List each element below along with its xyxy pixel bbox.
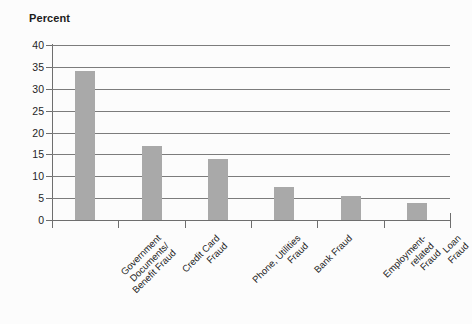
plot-area (52, 45, 450, 220)
bar (208, 159, 228, 220)
y-tick-label: 20 (22, 128, 44, 138)
bar (75, 71, 95, 220)
gridline (52, 67, 450, 68)
gridline (52, 198, 450, 199)
x-tick-mark (450, 221, 451, 228)
category-label: GovernmentDocuments/Benefit Fraud (116, 233, 179, 296)
x-tick-mark (118, 221, 119, 228)
y-tick-label: 30 (22, 84, 44, 94)
gridline (52, 89, 450, 90)
category-label: Bank Fraud (313, 233, 355, 275)
x-tick-mark (251, 221, 252, 228)
gridline (52, 176, 450, 177)
y-tick-label: 15 (22, 149, 44, 159)
x-tick-mark (185, 221, 186, 228)
x-tick-mark (52, 221, 53, 228)
y-axis-title: Percent (29, 12, 70, 24)
x-tick-mark (384, 221, 385, 228)
gridline (52, 154, 450, 155)
y-tick-label: 40 (22, 40, 44, 50)
gridline (52, 45, 450, 46)
category-label-line: Bank Fraud (313, 233, 355, 275)
category-label: Credit CardFraud (180, 233, 229, 282)
y-tick-label: 25 (22, 106, 44, 116)
y-tick-label: 5 (22, 193, 44, 203)
gridline (52, 133, 450, 134)
y-tick-label: 0 (22, 215, 44, 225)
bar-chart-figure: Percent 0510152025303540 GovernmentDocum… (0, 0, 472, 324)
category-label: Phone, UtilitiesFraud (250, 233, 310, 293)
bar (274, 187, 294, 220)
y-tick-label: 35 (22, 62, 44, 72)
x-axis-end-cap (450, 213, 451, 221)
category-label: Employment-relatedFraud (381, 233, 443, 295)
category-label: LoanFraud (438, 233, 470, 265)
bar (142, 146, 162, 220)
bar (341, 196, 361, 220)
gridline (52, 111, 450, 112)
y-tick-label: 10 (22, 171, 44, 181)
bar (407, 203, 427, 221)
x-tick-mark (317, 221, 318, 228)
